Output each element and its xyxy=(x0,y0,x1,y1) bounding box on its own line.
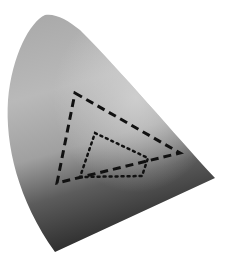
diagram-canvas xyxy=(0,0,232,271)
locus-highlight xyxy=(8,15,215,252)
chromaticity-diagram xyxy=(0,0,232,271)
